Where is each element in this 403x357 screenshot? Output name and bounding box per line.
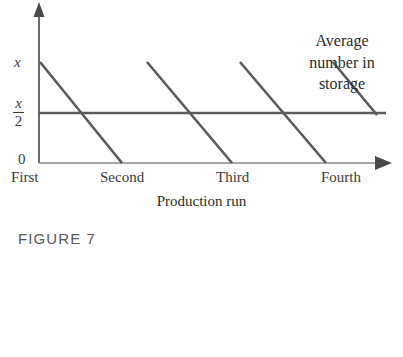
x-axis-title: Production run [0, 193, 403, 210]
fraction-numerator: x [14, 96, 23, 111]
x-axis-tick-second: Second [100, 170, 144, 185]
y-axis-label-x: x [14, 55, 21, 70]
annotation-line-3: storage [283, 73, 401, 95]
x-axis-arrowhead [375, 156, 392, 170]
series-annotation: Average number in storage [283, 30, 401, 95]
x-axis-tick-fourth: Fourth [321, 170, 361, 185]
y-axis-label-x-over-2: x 2 [13, 96, 24, 130]
annotation-line-1: Average [283, 30, 401, 52]
y-axis-arrowhead [34, 2, 45, 17]
figure-container: x x 2 0 First Second Third Fourth Averag… [0, 0, 403, 357]
figure-caption: FIGURE 7 [18, 230, 96, 247]
annotation-line-2: number in [283, 52, 401, 74]
y-axis-label-zero: 0 [18, 152, 26, 167]
fraction-denominator: 2 [14, 114, 24, 129]
x-axis-tick-first: First [11, 170, 39, 185]
x-axis [39, 156, 392, 170]
x-axis-tick-third: Third [216, 170, 249, 185]
y-axis [34, 2, 45, 163]
